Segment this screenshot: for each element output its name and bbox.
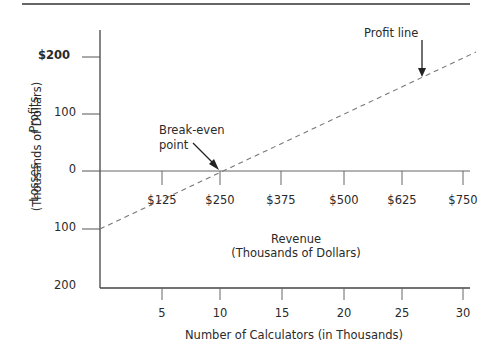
revenue-tick-500: $500 (329, 193, 358, 207)
y-tick-label-neg100: 100 (36, 220, 76, 234)
break-even-label-line2: point (159, 138, 188, 152)
x-tick-10: 10 (213, 306, 228, 320)
x-tick-25: 25 (395, 306, 410, 320)
x-tick-20: 20 (337, 306, 352, 320)
chart-canvas (0, 0, 493, 359)
y-tick-label-neg200: 200 (36, 278, 76, 292)
x-tick-30: 30 (456, 306, 471, 320)
revenue-units: (Thousands of Dollars) (231, 246, 361, 260)
y-tick-label-200: $200 (30, 48, 70, 62)
revenue-tick-375: $375 (266, 193, 295, 207)
y-axis-title-losses: Losses (28, 161, 41, 205)
break-even-arrow (193, 143, 214, 164)
profit-line-arrowhead (418, 68, 426, 77)
x-axis-title: Number of Calculators (in Thousands) (185, 328, 403, 342)
x-tick-15: 15 (275, 306, 290, 320)
break-even-label-line1: Break-even (159, 123, 225, 137)
profit-line-label: Profit line (364, 26, 418, 40)
x-tick-5: 5 (158, 306, 165, 320)
revenue-tick-750: $750 (448, 193, 477, 207)
revenue-title: Revenue (271, 232, 321, 246)
revenue-tick-250: $250 (205, 193, 234, 207)
x-ticks (162, 288, 463, 300)
revenue-tick-625: $625 (387, 193, 416, 207)
revenue-tick-125: $125 (147, 193, 176, 207)
